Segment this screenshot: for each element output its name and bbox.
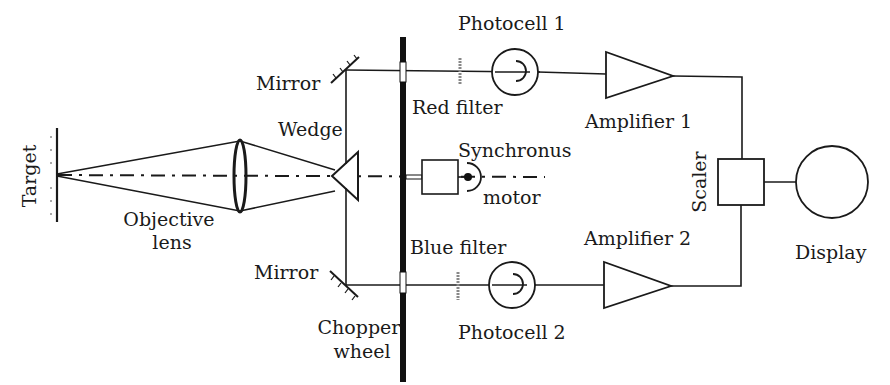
mirror-top-label: Mirror — [256, 72, 321, 94]
motor-label-2: motor — [483, 186, 542, 208]
red-filter-label: Red filter — [412, 96, 503, 118]
blue-filter-label: Blue filter — [410, 236, 507, 258]
ray-upper — [57, 141, 335, 174]
target: Target — [18, 128, 57, 222]
photocell-2-label: Photocell 2 — [458, 321, 566, 343]
photocell-1-label: Photocell 1 — [458, 12, 566, 34]
display — [796, 146, 868, 218]
amplifier-2-label: Amplifier 2 — [583, 227, 691, 249]
motor-label-1: Synchronus — [458, 139, 572, 161]
chopper-wheel-label: Chopper wheel — [318, 316, 407, 362]
amplifier-2 — [604, 262, 671, 308]
optical-diagram: Target Objective lens Wedge Mirror Mirro… — [0, 0, 890, 385]
wedge-label: Wedge — [278, 118, 343, 140]
mirror-bottom-label: Mirror — [254, 261, 319, 283]
wedge — [332, 152, 358, 200]
objective-lens-label: Objective lens — [123, 208, 220, 253]
ray-lower — [57, 176, 335, 211]
photocell-1 — [492, 49, 538, 95]
target-label: Target — [18, 144, 40, 207]
amplifier-1 — [606, 52, 673, 98]
scaler — [718, 159, 764, 205]
scaler-label: Scaler — [688, 150, 710, 212]
photocell-2 — [489, 262, 535, 308]
display-label: Display — [795, 241, 867, 263]
mirror-top — [331, 55, 359, 83]
amplifier-1-label: Amplifier 1 — [584, 110, 692, 132]
